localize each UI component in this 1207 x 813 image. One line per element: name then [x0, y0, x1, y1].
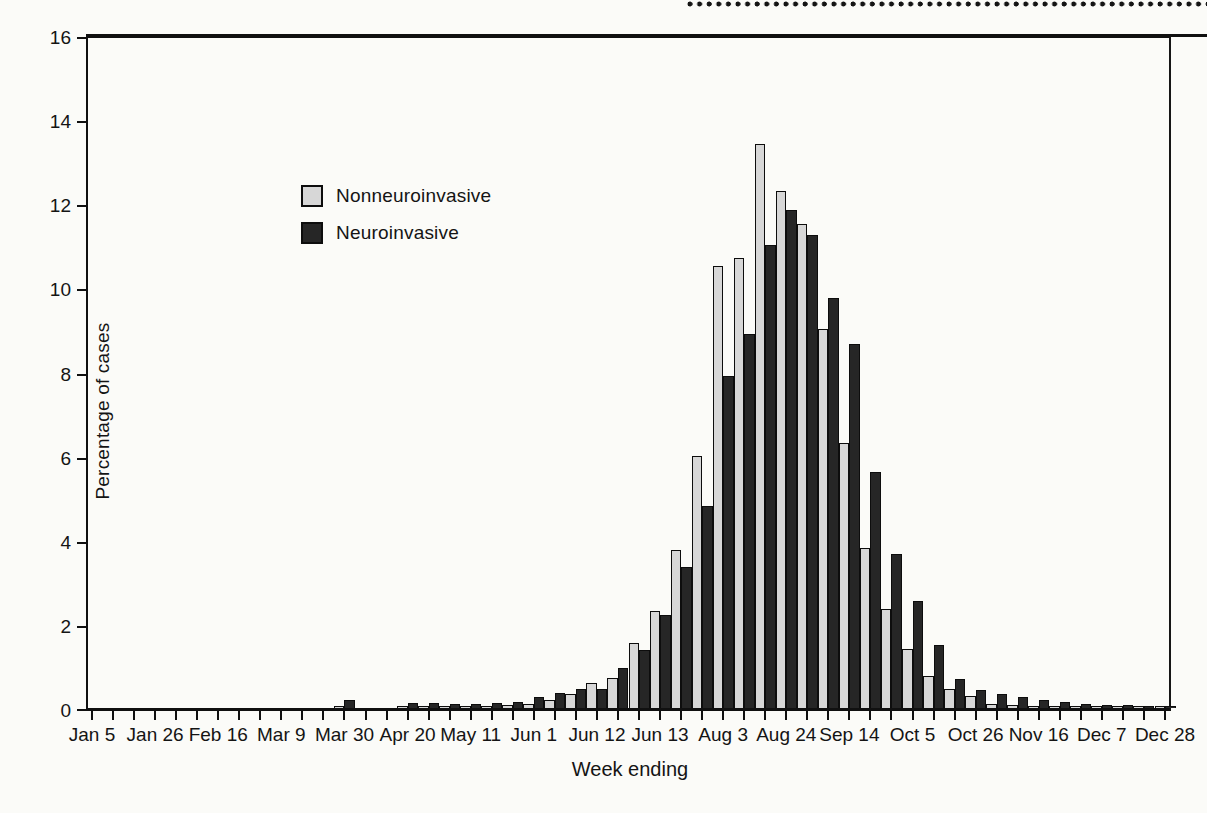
- bar-nonneuroinvasive-week41: [923, 676, 934, 708]
- x-axis-tick: [154, 711, 156, 720]
- bar-neuroinvasive-week21: [513, 702, 524, 708]
- y-axis-tick-label: 8: [31, 364, 71, 386]
- y-axis-tick-label: 14: [31, 111, 71, 133]
- x-axis-tick: [428, 711, 430, 720]
- bar-nonneuroinvasive-week45: [1007, 705, 1018, 708]
- bar-neuroinvasive-week49: [1102, 705, 1113, 708]
- x-axis-tick: [365, 711, 367, 720]
- bar-neuroinvasive-week51: [1144, 706, 1155, 708]
- x-axis-tick: [512, 711, 514, 720]
- legend-label: Neuroinvasive: [336, 222, 459, 244]
- bar-neuroinvasive-week17: [429, 703, 440, 708]
- x-axis-tick: [1143, 711, 1145, 720]
- x-axis-tick: [890, 711, 892, 720]
- y-axis-tick: [77, 289, 86, 291]
- x-axis-tick: [280, 711, 282, 720]
- y-axis-tick: [77, 205, 86, 207]
- x-axis-tick: [701, 711, 703, 720]
- bar-neuroinvasive-week43: [976, 690, 987, 708]
- bar-neuroinvasive-week32: [744, 334, 755, 708]
- bar-neuroinvasive-week34: [786, 210, 797, 708]
- y-axis-tick: [77, 626, 86, 628]
- bar-neuroinvasive-week42: [955, 679, 966, 708]
- legend-swatch-neuroinvasive: [301, 222, 323, 244]
- bar-neuroinvasive-week37: [849, 344, 860, 708]
- bar-neuroinvasive-week35: [807, 235, 818, 708]
- legend-label: Nonneuroinvasive: [336, 185, 491, 207]
- x-axis-tick: [491, 711, 493, 720]
- y-axis-tick-label: 0: [31, 700, 71, 722]
- x-axis-tick: [933, 711, 935, 720]
- bar-neuroinvasive-week29: [681, 567, 692, 708]
- bar-neuroinvasive-week33: [765, 245, 776, 708]
- bar-nonneuroinvasive-week22: [523, 704, 534, 708]
- y-axis-tick: [77, 709, 86, 711]
- x-axis-tick: [869, 711, 871, 720]
- bar-nonneuroinvasive-week24: [565, 694, 576, 708]
- bar-nonneuroinvasive-week50: [1112, 706, 1123, 708]
- x-axis-tick: [386, 711, 388, 720]
- x-axis-tick-label: Dec 28: [1127, 724, 1203, 746]
- x-axis-tick: [638, 711, 640, 720]
- bar-neuroinvasive-week50: [1123, 705, 1134, 708]
- bar-nonneuroinvasive-week40: [902, 649, 913, 708]
- bar-nonneuroinvasive-week25: [586, 683, 597, 708]
- bar-neuroinvasive-week18: [450, 704, 461, 708]
- x-axis-tick: [238, 711, 240, 720]
- x-axis-tick: [196, 711, 198, 720]
- bar-nonneuroinvasive-week21: [502, 705, 513, 708]
- bar-neuroinvasive-week36: [828, 298, 839, 708]
- bar-nonneuroinvasive-week48: [1070, 706, 1081, 708]
- bar-neuroinvasive-week39: [891, 554, 902, 708]
- x-axis-tick: [91, 711, 93, 720]
- y-axis-tick: [77, 542, 86, 544]
- x-axis-tick: [554, 711, 556, 720]
- bar-nonneuroinvasive-week38: [860, 548, 871, 708]
- x-axis-tick: [806, 711, 808, 720]
- legend-swatch-nonneuroinvasive: [301, 185, 323, 207]
- bar-neuroinvasive-week23: [555, 693, 566, 708]
- x-axis-tick: [743, 711, 745, 720]
- x-axis-tick: [175, 711, 177, 720]
- x-axis-tick: [301, 711, 303, 720]
- bar-neuroinvasive-week16: [408, 703, 419, 708]
- x-axis-title: Week ending: [530, 758, 730, 781]
- bar-nonneuroinvasive-week39: [881, 609, 892, 708]
- x-axis-tick: [449, 711, 451, 720]
- bar-nonneuroinvasive-week30: [692, 456, 703, 708]
- bar-neuroinvasive-week45: [1018, 697, 1029, 708]
- bar-neuroinvasive-week48: [1081, 704, 1092, 708]
- bar-neuroinvasive-week25: [597, 689, 608, 708]
- bar-neuroinvasive-week24: [576, 689, 587, 708]
- bar-nonneuroinvasive-week17: [418, 706, 429, 708]
- bar-neuroinvasive-week22: [534, 697, 545, 708]
- y-axis-tick: [77, 37, 86, 39]
- page-perforation-dots: [686, 0, 1207, 9]
- bar-nonneuroinvasive-week44: [986, 704, 997, 708]
- bar-neuroinvasive-week38: [870, 472, 881, 708]
- x-axis-tick: [533, 711, 535, 720]
- x-axis-tick: [343, 711, 345, 720]
- bar-nonneuroinvasive-week23: [544, 700, 555, 708]
- x-axis-tick: [827, 711, 829, 720]
- bar-nonneuroinvasive-week51: [1133, 706, 1144, 708]
- bar-nonneuroinvasive-week49: [1091, 706, 1102, 708]
- legend-item-neuroinvasive: Neuroinvasive: [301, 221, 491, 245]
- x-axis-tick: [764, 711, 766, 720]
- bar-neuroinvasive-week52: [1165, 706, 1176, 708]
- x-axis-tick: [1017, 711, 1019, 720]
- bar-neuroinvasive-week46: [1039, 700, 1050, 708]
- x-axis-tick: [575, 711, 577, 720]
- bar-nonneuroinvasive-week32: [734, 258, 745, 708]
- bar-neuroinvasive-week13: [344, 700, 355, 708]
- x-axis-tick: [996, 711, 998, 720]
- x-axis-tick: [1038, 711, 1040, 720]
- bar-nonneuroinvasive-week36: [818, 329, 829, 708]
- x-axis-tick: [722, 711, 724, 720]
- bar-nonneuroinvasive-week37: [839, 443, 850, 708]
- x-axis-tick: [259, 711, 261, 720]
- bar-nonneuroinvasive-week16: [397, 706, 408, 708]
- bar-nonneuroinvasive-week13: [334, 706, 345, 708]
- bar-neuroinvasive-week28: [660, 615, 671, 708]
- y-axis-title: Percentage of cases: [92, 313, 114, 509]
